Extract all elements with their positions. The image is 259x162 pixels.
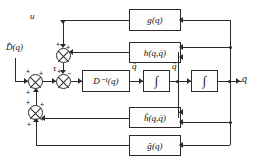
block-integrator-1: ∫ bbox=[143, 70, 170, 92]
sign-sum-bottom-right: + bbox=[40, 101, 44, 108]
block-integrator-2: ∫ bbox=[191, 70, 218, 92]
block-gravity-feedback: g(q) bbox=[129, 9, 181, 31]
label-velocity: q̇ bbox=[172, 62, 177, 71]
arrow-dhat-into-sumleft bbox=[24, 78, 28, 84]
label-inertia-estimate: D̂(q) bbox=[6, 43, 23, 52]
wire-g-to-sumtop bbox=[63, 20, 129, 21]
sign-sum-left-top: + bbox=[26, 68, 30, 75]
block-coriolis-feedback: h(q,q̇) bbox=[129, 42, 181, 63]
label-accel: q̈ bbox=[132, 62, 137, 71]
wire-q-bus-down bbox=[230, 81, 231, 145]
arrow-hhat-into-sumbottom bbox=[41, 115, 45, 121]
block-gravity-estimate-label: ĝ(q) bbox=[147, 141, 162, 151]
block-inertia-inverse-label: D⁻¹(q) bbox=[93, 76, 118, 86]
arrow-u-into-sum-top bbox=[60, 44, 66, 48]
wire-u-to-sum-top bbox=[63, 22, 64, 46]
arrow-into-sumleft-bottom bbox=[33, 88, 39, 92]
sign-sum-bottom-top: + bbox=[26, 99, 30, 106]
arrow-into-sum-torque bbox=[60, 70, 66, 74]
arrow-h-into-sumtop bbox=[69, 49, 73, 55]
arrow-into-int1 bbox=[139, 78, 143, 84]
sign-sum-bottom-bottom: + bbox=[27, 121, 31, 128]
wire-qdot-hhat-stub bbox=[178, 112, 181, 113]
label-torque: τ bbox=[53, 64, 56, 73]
arrow-into-int2 bbox=[187, 78, 191, 84]
label-output-q: q bbox=[242, 74, 247, 84]
wire-q-bus-up bbox=[230, 20, 231, 81]
integrator-1-symbol: ∫ bbox=[155, 73, 159, 89]
sign-sum-left-bottom: + bbox=[26, 89, 30, 96]
block-coriolis-estimate-label: ĥ(q,q̇) bbox=[144, 113, 166, 123]
block-coriolis-estimate: ĥ(q,q̇) bbox=[129, 107, 181, 128]
sign-sum-left-right: + bbox=[39, 70, 43, 77]
node-q-h-tap bbox=[229, 46, 232, 49]
integrator-2-symbol: ∫ bbox=[203, 73, 207, 89]
arrow-into-dinv bbox=[78, 78, 82, 84]
wire-hhat-to-sumbottom bbox=[43, 118, 129, 119]
sign-sum-torque-right: − bbox=[67, 70, 71, 77]
arrow-q-into-hhat bbox=[179, 119, 183, 125]
wire-sumbottom-to-sumleft bbox=[36, 90, 37, 105]
wire-h-to-sumtop bbox=[71, 52, 129, 53]
wire-ghat-up-to-sumbottom bbox=[36, 120, 37, 145]
block-inertia-inverse: D⁻¹(q) bbox=[82, 70, 130, 92]
block-gravity-feedback-label: g(q) bbox=[147, 15, 162, 25]
wire-q-to-g bbox=[181, 20, 230, 21]
arrow-u-head bbox=[60, 20, 66, 24]
arrow-q-into-ghat bbox=[179, 142, 183, 148]
arrow-q-into-h bbox=[179, 44, 183, 50]
wire-q-to-hhat bbox=[181, 122, 230, 123]
block-coriolis-feedback-label: h(q,q̇) bbox=[144, 48, 166, 58]
block-gravity-estimate: ĝ(q) bbox=[129, 135, 181, 156]
wire-q-to-h bbox=[181, 47, 230, 48]
wire-q-to-ghat bbox=[181, 145, 230, 146]
arrow-output-q bbox=[236, 78, 240, 84]
node-q-hhat-tap bbox=[229, 121, 232, 124]
wire-dhat-down bbox=[15, 58, 16, 81]
arrow-qdot-into-h bbox=[179, 54, 183, 60]
wire-ghat-to-sumbottom bbox=[36, 145, 129, 146]
arrow-q-into-g bbox=[179, 17, 183, 23]
arrow-into-sumtorque-left bbox=[52, 78, 56, 84]
block-diagram-canvas: g(q) h(q,q̇) D⁻¹(q) ∫ ∫ ĥ(q,q̇) ĝ(q) + +… bbox=[0, 0, 259, 162]
label-input-u: u bbox=[30, 12, 35, 21]
wire-qdot-h-link bbox=[178, 52, 179, 58]
arrow-ghat-into-sumbottom bbox=[33, 118, 39, 122]
